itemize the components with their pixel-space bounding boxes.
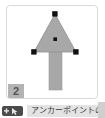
arrow-head-triangle-shape [34, 14, 76, 52]
arrow-stem-shape [49, 51, 62, 90]
right-anchor-point[interactable] [73, 49, 78, 54]
caption-text: アンカーポイントの [27, 105, 105, 117]
right-edge-shading [98, 102, 105, 118]
left-anchor-point[interactable] [31, 49, 36, 54]
screenshot-root: 2 アンカーポイントの [0, 0, 105, 118]
center-anchor-point[interactable] [53, 37, 57, 41]
caption-row: アンカーポイントの [0, 104, 105, 118]
step-number-badge: 2 [8, 84, 24, 99]
illustration-panel: 2 [6, 5, 98, 99]
direct-selection-pen-cursor-icon [3, 106, 22, 116]
apex-anchor-point[interactable] [52, 11, 57, 16]
tool-badge[interactable] [2, 106, 23, 116]
